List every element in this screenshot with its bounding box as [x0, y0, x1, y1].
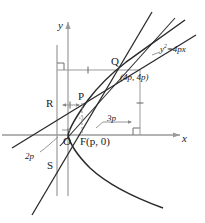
measure-label-2p: 2p — [25, 152, 34, 161]
right-angle-bottom-right — [133, 128, 140, 135]
point-label-s: S — [47, 160, 53, 171]
parabola-equation-label: y2=4px — [160, 44, 186, 54]
dim-3p-head-right — [128, 120, 132, 123]
point-coords-q: (4p, 4p) — [120, 73, 149, 82]
arrow-head-p-r — [62, 103, 66, 106]
equation-rhs: =4px — [167, 44, 186, 54]
parabola-geometry-figure: y x y2=4px Q (4p, 4p) P R O F(p, 0) S 2p… — [0, 0, 205, 223]
x-axis-arrow — [173, 132, 180, 137]
point-label-focus: F(p, 0) — [80, 136, 110, 147]
point-label-p: P — [78, 91, 84, 102]
dim-2p-leader — [40, 137, 58, 152]
right-angle-top-left — [57, 63, 64, 70]
point-label-r: R — [46, 98, 53, 109]
x-axis-label: x — [182, 133, 187, 144]
line-o-q — [60, 18, 175, 146]
y-axis-label: y — [58, 20, 63, 31]
y-axis-arrow — [65, 22, 70, 29]
dim-3p-leader — [96, 122, 103, 128]
point-label-origin: O — [63, 136, 71, 147]
measure-label-3p: 3p — [107, 114, 116, 123]
point-label-q: Q — [111, 56, 119, 67]
line-s-q — [32, 12, 152, 215]
figure-canvas — [0, 0, 205, 223]
equation-leader — [152, 52, 160, 55]
